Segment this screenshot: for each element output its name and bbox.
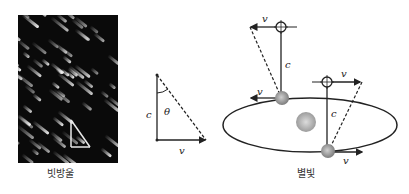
star-icon	[274, 20, 288, 34]
star2-v-label: v	[341, 68, 347, 79]
diagram-canvas: c θ v v c v v c v	[0, 0, 409, 194]
star-icon	[320, 75, 334, 89]
orbit-diagram: v c v v c v	[223, 13, 397, 166]
earth-icon	[321, 144, 335, 158]
triangle-theta-label: θ	[164, 106, 170, 117]
sun-icon	[296, 112, 316, 132]
starlight-caption: 별빛	[288, 165, 324, 180]
velocity-triangle: c θ v	[146, 74, 206, 157]
light1-c-label: c	[285, 59, 291, 70]
earth2-v-label: v	[343, 155, 349, 166]
earth1-v-label: v	[257, 86, 263, 97]
earth-icon	[275, 91, 289, 105]
photo-triangle-overlay	[71, 120, 90, 147]
light2-c-label: c	[331, 108, 337, 119]
triangle-c-label: c	[146, 109, 152, 120]
triangle-v-label: v	[179, 145, 185, 156]
star1-v-label: v	[262, 13, 268, 24]
